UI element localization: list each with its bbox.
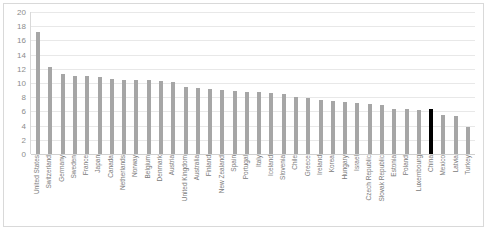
bar — [343, 102, 347, 154]
x-label-slot: Netherlands — [117, 155, 129, 229]
bar-slot — [253, 12, 265, 154]
x-label-slot: Israel — [351, 155, 363, 229]
x-axis-label: Netherlands — [120, 155, 127, 190]
x-label-slot: Chile — [290, 155, 302, 229]
bar — [331, 101, 335, 154]
x-axis-label: Sweden — [71, 155, 78, 179]
x-label-slot: Australia — [191, 155, 203, 229]
x-label-slot: Ireland — [314, 155, 326, 229]
bar — [319, 100, 323, 154]
x-axis-labels: United StatesSwitzerlandGermanySwedenFra… — [30, 155, 475, 229]
y-axis-tick: 2 — [22, 135, 26, 144]
bar-slot — [450, 12, 462, 154]
bar-slot — [118, 12, 130, 154]
x-label-slot: Poland — [400, 155, 412, 229]
bar-slot — [143, 12, 155, 154]
y-axis-tick: 10 — [17, 79, 26, 88]
bar — [208, 89, 212, 154]
bar — [466, 127, 470, 154]
bar-highlighted — [429, 109, 433, 154]
x-axis-label: Hungary — [342, 155, 349, 180]
bar-slot — [314, 12, 326, 154]
x-axis-label: Australia — [194, 155, 201, 180]
x-axis-label: Poland — [403, 155, 410, 175]
bar — [368, 104, 372, 154]
x-axis-label: New Zealand — [219, 155, 226, 193]
bar-slot — [192, 12, 204, 154]
bar — [257, 92, 261, 154]
x-axis-label: Chile — [292, 155, 299, 170]
x-axis-label: Ireland — [317, 155, 324, 175]
bar — [110, 79, 114, 154]
bar-slot — [69, 12, 81, 154]
x-label-slot: Turkey — [462, 155, 474, 229]
x-label-slot: France — [80, 155, 92, 229]
bar — [147, 80, 151, 154]
y-axis: 20181614121086420 — [4, 12, 28, 154]
bar — [392, 109, 396, 154]
x-label-slot: Norway — [130, 155, 142, 229]
x-axis-label: Japan — [95, 155, 102, 173]
bar — [196, 88, 200, 154]
x-axis-label: Germany — [59, 155, 66, 182]
bar — [441, 115, 445, 154]
x-axis-label: Denmark — [157, 155, 164, 181]
x-axis-label: Korea — [329, 155, 336, 172]
x-label-slot: Germany — [56, 155, 68, 229]
x-label-slot: United Kingdom — [179, 155, 191, 229]
bar — [417, 110, 421, 154]
x-axis-label: France — [83, 155, 90, 175]
x-axis-label: Portugal — [243, 155, 250, 179]
x-axis-label: Turkey — [465, 155, 472, 175]
bar-slot — [327, 12, 339, 154]
bar-slot — [229, 12, 241, 154]
x-axis-label: Finland — [206, 155, 213, 176]
x-axis-label: Belgium — [145, 155, 152, 178]
x-label-slot: Italy — [253, 155, 265, 229]
x-label-slot: New Zealand — [216, 155, 228, 229]
x-label-slot: Hungary — [339, 155, 351, 229]
x-label-slot: Czech Republic — [363, 155, 375, 229]
bar-slot — [413, 12, 425, 154]
bar — [36, 32, 40, 154]
x-axis-label: Czech Republic — [366, 155, 373, 201]
x-axis-label: Israel — [354, 155, 361, 171]
bar — [171, 82, 175, 154]
x-axis-label: Iceland — [268, 155, 275, 176]
x-axis-label: Austria — [169, 155, 176, 175]
figure-caption — [0, 236, 490, 246]
y-axis-tick: 6 — [22, 107, 26, 116]
bar — [380, 105, 384, 154]
bar-slot — [216, 12, 228, 154]
bar — [134, 80, 138, 154]
x-label-slot: China — [425, 155, 437, 229]
x-label-slot: Korea — [327, 155, 339, 229]
x-label-slot: Slovenia — [277, 155, 289, 229]
bar-slot — [57, 12, 69, 154]
x-label-slot: United States — [31, 155, 43, 229]
x-label-slot: Luxembourg — [413, 155, 425, 229]
bar — [73, 76, 77, 154]
y-axis-tick: 16 — [17, 36, 26, 45]
chart-plot-wrapper: 20181614121086420 United StatesSwitzerla… — [4, 4, 483, 226]
x-label-slot: Latvia — [450, 155, 462, 229]
bar — [61, 74, 65, 154]
x-label-slot: Denmark — [154, 155, 166, 229]
x-axis-label: Slovenia — [280, 155, 287, 180]
x-axis-label: Mexico — [440, 155, 447, 176]
y-axis-tick: 20 — [17, 8, 26, 17]
bar — [282, 94, 286, 154]
x-axis-label: Spain — [231, 155, 238, 172]
plot-area — [30, 12, 475, 154]
x-axis-label: Greece — [305, 155, 312, 176]
bar-slot — [93, 12, 105, 154]
bar-slot — [400, 12, 412, 154]
bar-slot — [437, 12, 449, 154]
x-axis-label: United Kingdom — [182, 155, 189, 201]
bar-slot — [339, 12, 351, 154]
bar-slot — [155, 12, 167, 154]
y-axis-tick: 0 — [22, 150, 26, 159]
bar-slot — [376, 12, 388, 154]
x-axis-label: Latvia — [453, 155, 460, 172]
bar-slot — [204, 12, 216, 154]
